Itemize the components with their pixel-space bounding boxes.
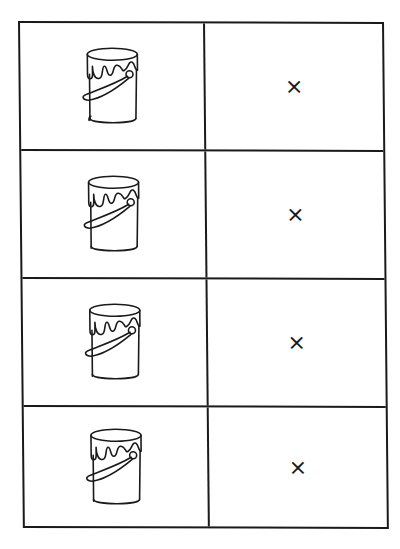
table-row: × [24, 405, 387, 527]
table-row: × [22, 277, 385, 406]
paint-can-icon [76, 300, 153, 384]
x-mark: × [287, 332, 306, 354]
paint-can-icon [75, 172, 152, 256]
image-cell [20, 23, 206, 149]
mark-cell: × [207, 279, 385, 405]
x-mark: × [285, 76, 304, 98]
mark-cell: × [206, 151, 384, 277]
paint-can-icon [77, 425, 154, 509]
mark-cell: × [209, 407, 387, 526]
worksheet: × × [0, 0, 400, 549]
table-row: × [21, 149, 384, 278]
image-cell [24, 407, 210, 526]
mark-cell: × [205, 23, 383, 149]
grid-table: × × [18, 21, 389, 529]
x-mark: × [286, 204, 305, 226]
x-mark: × [288, 456, 307, 478]
image-cell [22, 279, 208, 405]
table-row: × [20, 23, 383, 150]
image-cell [21, 151, 207, 277]
paint-can-icon [74, 44, 151, 128]
